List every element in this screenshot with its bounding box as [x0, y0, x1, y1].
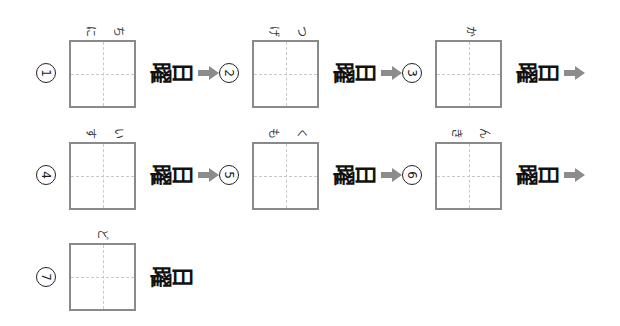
item-number-badge: 4 — [36, 165, 56, 185]
bi-kanji: 日 — [171, 266, 193, 288]
kanji-writing-box[interactable] — [69, 142, 136, 210]
furigana: も — [268, 128, 279, 139]
you-kanji: 曜 — [149, 164, 171, 186]
furigana: つ — [296, 26, 307, 37]
item-3: 3 か 曜 日 — [400, 22, 584, 124]
guide-line-horizontal — [437, 176, 500, 177]
kanji-writing-box[interactable] — [435, 40, 502, 108]
furigana: に — [85, 26, 96, 37]
guide-line-horizontal — [71, 74, 134, 75]
kanji-writing-box[interactable] — [252, 40, 319, 108]
item-number-badge: 1 — [36, 63, 56, 83]
guide-line-horizontal — [71, 277, 134, 278]
arrow-right-icon — [381, 168, 402, 182]
item-number: 7 — [40, 273, 52, 281]
you-char: 曜 — [515, 164, 537, 186]
item-number: 5 — [223, 171, 235, 179]
guide-line-horizontal — [254, 176, 317, 177]
bi-kanji: 日 — [171, 164, 193, 186]
bi-kanji: 日 — [537, 164, 559, 186]
you-kanji: 曜 — [149, 62, 171, 84]
furigana: く — [296, 128, 307, 139]
bi-char: 日 — [354, 164, 376, 186]
you-char: 曜 — [149, 62, 171, 84]
item-1: 1 に ち 曜 日 — [34, 22, 218, 124]
you-char: 曜 — [332, 164, 354, 186]
bi-kanji: 日 — [537, 62, 559, 84]
reading-char-1: す — [85, 128, 96, 139]
item-number: 1 — [40, 69, 52, 77]
item-6: 6 き ん 曜 日 — [400, 124, 584, 226]
bi-kanji: 日 — [171, 62, 193, 84]
guide-line-horizontal — [71, 176, 134, 177]
reading-char-1: き — [451, 128, 462, 139]
furigana: ち — [113, 26, 124, 37]
item-4: 4 す い 曜 日 — [34, 124, 218, 226]
item-number-badge: 2 — [219, 63, 239, 83]
bi-kanji: 日 — [354, 62, 376, 84]
bi-char: 日 — [171, 266, 193, 288]
arrow-right-icon — [564, 168, 585, 182]
reading-char-1: ど — [97, 229, 108, 240]
item-5: 5 も く 曜 日 — [217, 124, 401, 226]
you-kanji: 曜 — [515, 164, 537, 186]
bi-char: 日 — [537, 62, 559, 84]
item-number: 6 — [406, 171, 418, 179]
reading-char-1: か — [465, 26, 476, 37]
guide-line-horizontal — [437, 74, 500, 75]
furigana: す — [85, 128, 96, 139]
you-char: 曜 — [332, 62, 354, 84]
you-char: 曜 — [515, 62, 537, 84]
bi-char: 日 — [171, 164, 193, 186]
guide-line-horizontal — [254, 74, 317, 75]
bi-char: 日 — [537, 164, 559, 186]
you-char: 曜 — [149, 266, 171, 288]
you-kanji: 曜 — [515, 62, 537, 84]
reading-char-1: も — [268, 128, 279, 139]
reading-char-2: ち — [113, 26, 124, 37]
arrow-right-icon — [198, 66, 219, 80]
arrow-right-icon — [198, 168, 219, 182]
item-number: 3 — [406, 69, 418, 77]
item-number: 4 — [40, 171, 52, 179]
furigana: ん — [479, 128, 490, 139]
reading-char-2: く — [296, 128, 307, 139]
kanji-writing-box[interactable] — [69, 40, 136, 108]
item-2: 2 げ つ 曜 日 — [217, 22, 401, 124]
bi-char: 日 — [171, 62, 193, 84]
kanji-writing-box[interactable] — [252, 142, 319, 210]
reading-char-2: い — [113, 128, 124, 139]
arrow-right-icon — [564, 66, 585, 80]
item-number-badge: 6 — [402, 165, 422, 185]
bi-char: 日 — [354, 62, 376, 84]
item-number: 2 — [223, 69, 235, 77]
reading-char-2: つ — [296, 26, 307, 37]
item-7: 7 ど 曜 日 — [34, 225, 218, 326]
item-number-badge: 3 — [402, 63, 422, 83]
you-kanji: 曜 — [332, 164, 354, 186]
you-char: 曜 — [149, 164, 171, 186]
arrow-right-icon — [381, 66, 402, 80]
kanji-writing-box[interactable] — [435, 142, 502, 210]
reading-char-1: げ — [268, 26, 279, 37]
item-number-badge: 7 — [36, 267, 56, 287]
bi-kanji: 日 — [354, 164, 376, 186]
furigana: い — [113, 128, 124, 139]
furigana: ど — [97, 229, 108, 240]
furigana: げ — [268, 26, 279, 37]
reading-char-2: ん — [479, 128, 490, 139]
item-number-badge: 5 — [219, 165, 239, 185]
furigana: か — [465, 26, 476, 37]
kanji-writing-box[interactable] — [69, 243, 136, 311]
reading-char-1: に — [85, 26, 96, 37]
you-kanji: 曜 — [149, 266, 171, 288]
you-kanji: 曜 — [332, 62, 354, 84]
furigana: き — [451, 128, 462, 139]
